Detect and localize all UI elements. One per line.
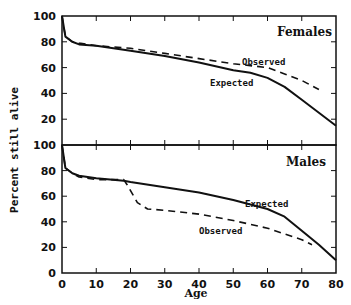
males-observed-label: Observed	[199, 226, 242, 236]
y-tick-label: 100	[33, 10, 56, 23]
x-tick-label: 50	[226, 278, 242, 291]
females-observed-label: Observed	[242, 57, 285, 67]
bottom-observed-line	[62, 145, 312, 245]
series-lines	[62, 16, 336, 260]
x-tick-label: 60	[260, 278, 276, 291]
y-axis-label: Percent still alive	[8, 87, 21, 213]
females-expected-label: Expected	[210, 78, 253, 88]
x-tick-label: 10	[89, 278, 105, 291]
y-tick-label: 60	[41, 62, 57, 75]
females-title: Females	[277, 25, 332, 39]
y-tick-label: 100	[33, 139, 56, 152]
x-tick-label: 70	[294, 278, 310, 291]
survival-chart: 2040608010002040608010001020304050607080…	[0, 0, 351, 305]
x-tick-label: 30	[157, 278, 173, 291]
y-tick-label: 20	[41, 113, 57, 126]
y-tick-label: 60	[41, 190, 57, 203]
x-axis-label: Age	[183, 287, 207, 300]
y-tick-label: 0	[48, 267, 56, 280]
x-tick-label: 20	[123, 278, 139, 291]
x-tick-label: 0	[58, 278, 66, 291]
y-tick-label: 40	[41, 87, 57, 100]
x-tick-label: 80	[328, 278, 344, 291]
y-tick-label: 80	[41, 165, 57, 178]
males-title: Males	[286, 155, 326, 169]
y-tick-label: 80	[41, 36, 57, 49]
y-tick-label: 40	[41, 216, 57, 229]
axis-tick-labels: 2040608010002040608010001020304050607080	[33, 10, 344, 291]
males-expected-label: Expected	[245, 199, 288, 209]
y-tick-label: 20	[41, 241, 57, 254]
